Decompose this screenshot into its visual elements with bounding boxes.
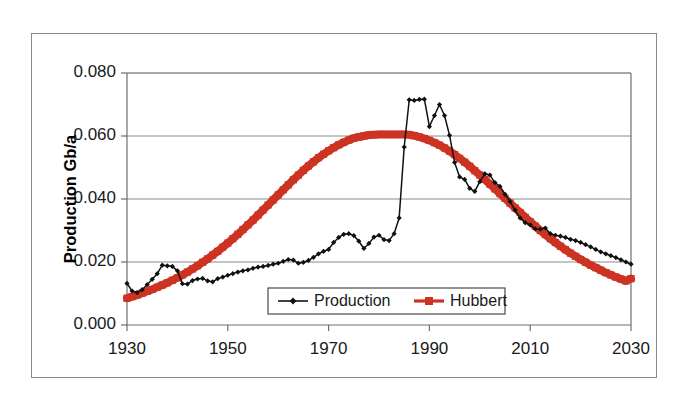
chart-legend: ProductionHubbert [268, 288, 507, 314]
production-marker [568, 237, 573, 242]
y-tick-label-0.020: 0.020 [73, 251, 116, 270]
production-marker [442, 113, 447, 118]
production-marker [407, 97, 412, 102]
production-marker [593, 247, 598, 252]
production-marker [240, 268, 245, 273]
production-marker [417, 97, 422, 102]
production-marker [250, 266, 255, 271]
hubbert-curve-line [127, 134, 631, 298]
production-marker [346, 231, 351, 236]
production-marker [412, 98, 417, 103]
y-tick-group [121, 73, 127, 325]
production-marker [447, 133, 452, 138]
production-marker [588, 244, 593, 249]
production-marker [245, 267, 250, 272]
production-marker [603, 251, 608, 256]
production-marker [432, 113, 437, 118]
y-axis-label: Production Gb/a [61, 134, 79, 263]
production-marker [260, 264, 265, 269]
x-tick-label-1990: 1990 [410, 339, 448, 358]
production-marker [230, 271, 235, 276]
y-tick-label-0.040: 0.040 [73, 188, 116, 207]
production-marker [235, 269, 240, 274]
legend-marker-square [425, 297, 433, 305]
y-tick-label-group: 0.0000.0200.0400.0600.080 [73, 62, 116, 333]
production-marker [558, 234, 563, 239]
legend-label-hubbert: Hubbert [450, 292, 507, 309]
production-marker [402, 144, 407, 149]
y-tick-label-0.000: 0.000 [73, 314, 116, 333]
series-hubbert [123, 131, 634, 302]
production-marker [563, 235, 568, 240]
production-marker [608, 253, 613, 258]
production-marker [286, 257, 291, 262]
production-marker [195, 276, 200, 281]
hubbert-marker [627, 275, 634, 282]
x-tick-label-2010: 2010 [511, 339, 549, 358]
y-axis-label-text: Production Gb/a [61, 134, 79, 263]
production-marker [397, 215, 402, 220]
production-marker [583, 242, 588, 247]
production-marker [457, 174, 462, 179]
production-marker [598, 249, 603, 254]
production-marker [180, 281, 185, 286]
production-marker [573, 238, 578, 243]
x-tick-label-1930: 1930 [108, 339, 146, 358]
production-marker [205, 278, 210, 283]
production-marker [225, 273, 230, 278]
production-marker [321, 249, 326, 254]
x-tick-label-1970: 1970 [310, 339, 348, 358]
y-tick-label-0.060: 0.060 [73, 125, 116, 144]
production-marker [613, 255, 618, 260]
production-marker [578, 240, 583, 245]
production-marker [276, 261, 281, 266]
production-marker [200, 276, 205, 281]
production-marker [301, 260, 306, 265]
production-marker [266, 263, 271, 268]
production-marker [255, 264, 260, 269]
x-tick-label-1950: 1950 [209, 339, 247, 358]
production-marker [437, 102, 442, 107]
x-tick-label-group: 193019501970199020102030 [108, 339, 650, 358]
production-marker [281, 259, 286, 264]
chart-figure: 193019501970199020102030 0.0000.0200.040… [0, 0, 686, 396]
production-marker [623, 259, 628, 264]
production-marker [422, 97, 427, 102]
production-marker [427, 124, 432, 129]
production-hubbert-chart: 193019501970199020102030 0.0000.0200.040… [0, 0, 686, 396]
y-tick-label-0.080: 0.080 [73, 62, 116, 81]
x-tick-label-2030: 2030 [612, 339, 650, 358]
production-marker [165, 263, 170, 268]
x-tick-group [127, 325, 631, 331]
production-marker [220, 275, 225, 280]
legend-label-production: Production [314, 292, 391, 309]
